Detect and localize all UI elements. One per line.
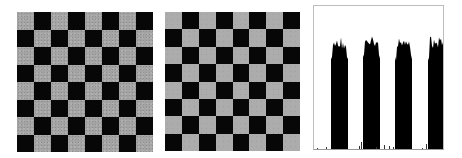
light-square [182, 99, 199, 116]
dark-square [136, 47, 153, 65]
dark-square [119, 100, 136, 118]
histogram-peak [331, 37, 348, 150]
dark-square [249, 82, 266, 99]
light-square [102, 135, 119, 153]
light-square [119, 117, 136, 135]
light-square [51, 47, 68, 65]
light-square [136, 30, 153, 48]
dark-square [233, 99, 250, 116]
light-square [266, 116, 283, 133]
histogram-chart [313, 5, 444, 150]
light-square [249, 64, 266, 81]
dark-square [68, 12, 85, 30]
light-square [182, 134, 199, 151]
light-square [283, 29, 300, 46]
light-square [266, 12, 283, 29]
dark-square [119, 65, 136, 83]
dark-square [85, 100, 102, 118]
dark-square [199, 99, 216, 116]
dark-square [216, 12, 233, 29]
light-square [233, 116, 250, 133]
light-square [136, 65, 153, 83]
dark-square [17, 100, 34, 118]
histogram-plot [314, 6, 444, 150]
dark-square [266, 134, 283, 151]
light-square [199, 82, 216, 99]
dark-square [283, 12, 300, 29]
light-square [266, 82, 283, 99]
dark-square [182, 12, 199, 29]
histogram-peak [363, 37, 380, 151]
dark-square [182, 47, 199, 64]
light-square [68, 65, 85, 83]
dark-square [34, 117, 51, 135]
light-square [233, 47, 250, 64]
light-square [119, 12, 136, 30]
light-square [34, 135, 51, 153]
light-square [136, 135, 153, 153]
light-square [216, 29, 233, 46]
dark-square [216, 82, 233, 99]
dark-square [102, 12, 119, 30]
light-square [233, 12, 250, 29]
dark-square [136, 82, 153, 100]
dark-square [199, 134, 216, 151]
light-square [17, 117, 34, 135]
light-square [68, 135, 85, 153]
dark-square [85, 30, 102, 48]
dark-square [136, 117, 153, 135]
dark-square [182, 116, 199, 133]
light-square [34, 65, 51, 83]
dark-square [266, 29, 283, 46]
light-square [85, 82, 102, 100]
light-square [283, 134, 300, 151]
dark-square [34, 47, 51, 65]
light-square [102, 65, 119, 83]
dark-square [266, 99, 283, 116]
dark-square [165, 134, 182, 151]
dark-square [17, 135, 34, 153]
light-square [51, 82, 68, 100]
dark-square [233, 134, 250, 151]
dark-square [34, 82, 51, 100]
light-square [283, 99, 300, 116]
dark-square [68, 47, 85, 65]
dark-square [199, 29, 216, 46]
light-square [68, 30, 85, 48]
light-square [17, 12, 34, 30]
dark-square [249, 116, 266, 133]
dark-square [165, 99, 182, 116]
dark-square [266, 64, 283, 81]
dark-square [216, 47, 233, 64]
light-square [182, 64, 199, 81]
light-square [102, 100, 119, 118]
light-square [249, 134, 266, 151]
light-square [199, 12, 216, 29]
light-square [51, 12, 68, 30]
dark-square [119, 135, 136, 153]
dark-square [17, 30, 34, 48]
light-square [182, 29, 199, 46]
light-square [165, 116, 182, 133]
light-square [216, 99, 233, 116]
dark-square [233, 64, 250, 81]
dark-square [216, 116, 233, 133]
dark-square [102, 117, 119, 135]
light-square [136, 100, 153, 118]
light-square [199, 116, 216, 133]
light-square [17, 82, 34, 100]
light-square [102, 30, 119, 48]
smoothed-checkerboard-image [165, 12, 300, 151]
light-square [249, 29, 266, 46]
light-square [119, 82, 136, 100]
dark-square [199, 64, 216, 81]
light-square [34, 100, 51, 118]
light-square [68, 100, 85, 118]
dark-square [233, 29, 250, 46]
light-square [283, 64, 300, 81]
light-square [249, 99, 266, 116]
dark-square [85, 135, 102, 153]
dark-square [249, 47, 266, 64]
light-square [233, 82, 250, 99]
light-square [34, 30, 51, 48]
